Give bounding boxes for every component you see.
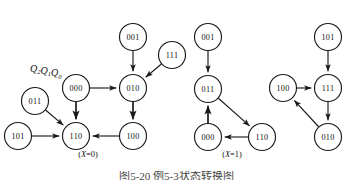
sub-caption-x-equals-0: (X=0)	[78, 150, 98, 159]
state-node-label: 111	[166, 51, 179, 60]
edge-010-to-100	[294, 100, 318, 126]
state-node-010[interactable]: 010	[120, 75, 147, 102]
edge-011-to-110	[218, 98, 249, 126]
state-node-label: 110	[70, 132, 83, 141]
state-node-011[interactable]: 011	[195, 76, 222, 103]
state-node-001[interactable]: 001	[195, 24, 222, 51]
state-node-010[interactable]: 010	[315, 124, 342, 151]
state-node-label: 000	[201, 133, 214, 142]
state-node-label: 001	[201, 33, 214, 42]
state-node-100[interactable]: 100	[120, 123, 147, 150]
state-node-label: 101	[321, 33, 334, 42]
state-node-label: 010	[126, 84, 139, 93]
state-node-label: 111	[322, 84, 335, 93]
state-node-000[interactable]: 000	[195, 124, 222, 151]
state-node-label: 100	[276, 84, 289, 93]
state-node-label: 011	[202, 85, 215, 94]
state-diagram-canvas: 0011110000100111011101000010110001101011…	[0, 0, 353, 180]
state-node-101[interactable]: 101	[5, 123, 32, 150]
state-node-111[interactable]: 111	[315, 75, 342, 102]
edge-011-to-110	[46, 110, 64, 125]
state-node-label: 001	[126, 33, 139, 42]
state-node-110[interactable]: 110	[63, 123, 90, 150]
state-node-111[interactable]: 111	[159, 42, 186, 69]
state-node-100[interactable]: 100	[270, 75, 297, 102]
edge-111-to-010	[146, 64, 162, 77]
state-node-000[interactable]: 000	[63, 75, 90, 102]
state-node-101[interactable]: 101	[315, 24, 342, 51]
state-node-011[interactable]: 011	[22, 88, 49, 115]
sub-caption-x-equals-1: (X=1)	[222, 150, 242, 159]
state-node-label: 010	[321, 133, 334, 142]
state-variable-label: Q2Q1Q0	[30, 63, 62, 80]
state-node-110[interactable]: 110	[249, 124, 276, 151]
state-transition-figure: 0011110000100111011101000010110001101011…	[0, 0, 353, 180]
state-node-001[interactable]: 001	[120, 24, 147, 51]
state-node-label: 100	[126, 132, 139, 141]
state-node-label: 110	[256, 133, 269, 142]
sub-captions-layer: (X=0)(X=1)	[78, 150, 242, 159]
state-node-label: 101	[11, 132, 24, 141]
state-node-label: 000	[69, 84, 82, 93]
state-node-label: 011	[29, 97, 42, 106]
figure-bottom-caption: 图5-20 例5-3状态转换图	[0, 171, 353, 180]
nodes-layer: 0011110000100111011101000010110001101011…	[5, 24, 342, 151]
